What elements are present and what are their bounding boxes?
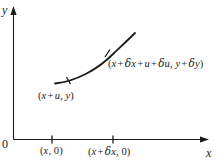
origin-label: 0 — [2, 138, 8, 150]
paren-close: ) — [59, 145, 63, 156]
diagram-canvas — [0, 0, 224, 165]
paren-close: ) — [70, 90, 74, 101]
plus-sign: + — [46, 90, 54, 101]
curve-tick-upper — [105, 50, 110, 58]
x-axis-arrowhead — [200, 136, 209, 142]
coordinate-diagram: y x 0 (x+u, y) (x+δx+u+δu, y+δy) (x, 0) … — [0, 0, 224, 165]
upper-point-label: (x+δx+u+δu, y+δy) — [108, 58, 203, 70]
x-axis-label: x — [206, 147, 211, 159]
paren-close: ) — [127, 146, 131, 157]
y-axis-label: y — [2, 4, 7, 16]
var-u: u — [144, 58, 149, 69]
x-tick-second-label: (x+δx, 0) — [88, 146, 130, 158]
plus-sign: + — [96, 146, 104, 157]
plus-sign: + — [150, 58, 158, 69]
plus-sign: + — [180, 58, 188, 69]
x-tick-first-label: (x, 0) — [40, 146, 63, 157]
paren-close: ) — [200, 58, 204, 69]
y-axis-arrowhead — [10, 6, 16, 15]
lower-point-label: (x+u, y) — [38, 91, 74, 102]
plus-sign: + — [116, 58, 124, 69]
